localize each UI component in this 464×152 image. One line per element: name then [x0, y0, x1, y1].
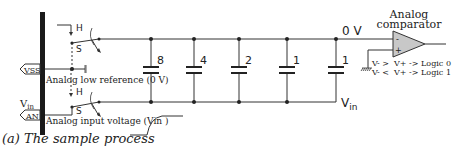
analog-comparator: Analog comparator - + V- > V+ -> Logic 0…: [361, 8, 451, 77]
capacitor-2-weight: 2: [245, 54, 252, 67]
comparator-plus-label: +: [395, 46, 402, 55]
an-pin-label: AN: [25, 112, 39, 121]
vss-pin: VSS: [20, 64, 41, 75]
bottom-switch-hold-label: H: [76, 87, 83, 97]
capacitor-1b-weight: 1: [342, 54, 349, 67]
top-switch-hold-control: [57, 25, 71, 34]
comparator-rule-2: V- < V+ -> Logic 1: [371, 68, 451, 77]
capacitor-4: 4: [186, 37, 207, 104]
top-switch-hold-arrow-icon: [69, 32, 73, 36]
capacitor-1b: 1: [328, 37, 349, 102]
top-switch: H S: [57, 23, 101, 69]
vss-pin-label: VSS: [23, 66, 41, 75]
top-switch-blade: [72, 39, 99, 43]
sample-process-diagram: VSS AN Vin Analog low reference (0 V) An…: [0, 0, 464, 152]
capacitor-4-weight: 4: [200, 54, 207, 67]
comparator-rule-1: V- > V+ -> Logic 0: [371, 59, 451, 68]
top-switch-hold-label: H: [76, 23, 83, 33]
capacitor-2: 2: [231, 37, 252, 104]
comparator-title-line2: comparator: [377, 18, 443, 31]
top-rail-voltage-label: 0 V: [342, 24, 362, 38]
vin-pin-side-label: Vin: [19, 98, 34, 111]
capacitor-8: 8: [143, 37, 164, 104]
bottom-switch-hold-arrow-icon: [69, 93, 73, 97]
figure-caption: (a) The sample process: [2, 131, 155, 146]
capacitor-1a-weight: 1: [293, 54, 300, 67]
bottom-rail-start-dot: [98, 101, 101, 104]
comparator-minus-label: -: [396, 35, 399, 44]
top-rail-start-dot: [98, 38, 101, 41]
vss-description: Analog low reference (0 V): [45, 75, 169, 85]
top-switch-sample-label: S: [76, 44, 82, 54]
comparator-ground-icon: [361, 68, 372, 71]
vss-ground-icon: [85, 65, 87, 73]
capacitor-8-weight: 8: [157, 54, 164, 67]
bottom-rail-vin-label: Vin: [341, 96, 357, 112]
an-pin: AN Vin: [19, 98, 40, 121]
capacitor-1a: 1: [279, 37, 300, 104]
bottom-switch-sample-label: S: [76, 106, 82, 116]
bottom-switch-blade: [72, 102, 99, 107]
chip-boundary-bar: [40, 12, 45, 135]
